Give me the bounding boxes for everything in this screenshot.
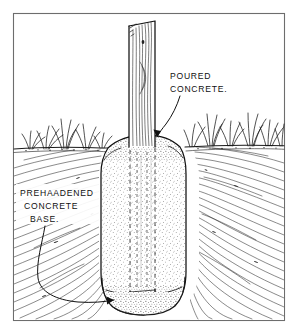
leader-poured-concrete [153,96,180,137]
post-concrete-diagram: POURED CONCRETE. PREHAADENED CONCRETE BA… [0,0,298,334]
soil-hatching-right [188,144,284,322]
figure-root: POURED CONCRETE. PREHAADENED CONCRETE BA… [0,0,298,334]
soil-hatching-left [14,146,110,322]
label-poured-concrete-line-2: CONCRETE. [170,84,227,94]
label-prehardened-base-line-3: BASE. [30,214,59,224]
label-poured-concrete-line-1: POURED [170,71,211,81]
label-poured-concrete: POURED CONCRETE. [170,71,227,94]
grass-tufts-right [184,113,284,147]
label-prehardened-base-line-1: PREHAADENED [20,188,94,198]
grass-tufts-left [22,119,112,149]
label-prehardened-base-line-2: CONCRETE [24,201,78,211]
wooden-post [129,21,155,147]
